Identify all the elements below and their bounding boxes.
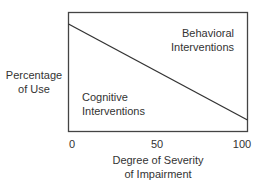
x-axis-title-line2: of Impairment [98, 167, 218, 181]
y-axis-title-line1: Percentage [3, 68, 65, 82]
x-tick-50: 50 [147, 137, 167, 151]
region-label-cognitive-line2: Interventions [82, 104, 145, 118]
x-tick-100: 100 [230, 137, 254, 151]
region-label-behavioral-line2: Interventions [150, 40, 234, 54]
y-axis-title-line2: of Use [3, 82, 65, 96]
region-label-cognitive-line1: Cognitive [82, 90, 128, 104]
region-label-behavioral-line1: Behavioral [150, 26, 234, 40]
x-tick-0: 0 [62, 137, 82, 151]
x-axis-title-line1: Degree of Severity [98, 153, 218, 167]
